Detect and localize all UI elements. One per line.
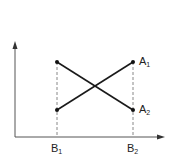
- label-b2: B2: [127, 143, 138, 155]
- point-a2-b2: [131, 108, 135, 112]
- label-a2: A2: [139, 104, 150, 116]
- point-a2-b1: [55, 60, 59, 64]
- point-a1-b1: [55, 108, 59, 112]
- x-axis-arrow-icon: [157, 135, 165, 140]
- point-a1-b2: [131, 60, 135, 64]
- label-a1: A1: [139, 56, 150, 68]
- interaction-plot: [0, 0, 171, 167]
- label-b1: B1: [51, 143, 62, 155]
- y-axis-arrow-icon: [13, 41, 18, 49]
